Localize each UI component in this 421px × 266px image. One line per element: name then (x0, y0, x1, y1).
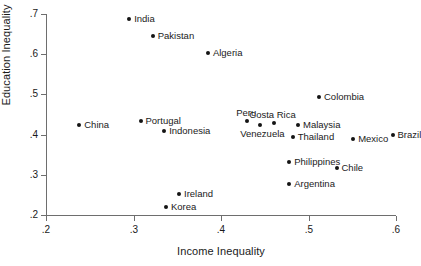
data-point (391, 133, 395, 137)
y-tick-mark (41, 94, 46, 95)
y-axis-line (46, 14, 47, 216)
data-point-label: Algeria (213, 47, 243, 58)
x-tick-label: .2 (31, 224, 61, 235)
y-tick-label: .5 (8, 88, 38, 99)
data-point (206, 51, 210, 55)
y-axis-title: Education Inequality (0, 0, 16, 165)
data-point (77, 123, 81, 127)
x-tick-mark (46, 216, 47, 221)
y-tick-label: .6 (8, 48, 38, 59)
x-tick-mark (221, 216, 222, 221)
data-point (287, 160, 291, 164)
x-tick-label: .6 (381, 224, 411, 235)
x-tick-label: .4 (206, 224, 236, 235)
data-point (139, 119, 143, 123)
y-tick-mark (41, 175, 46, 176)
y-tick-label: .7 (8, 8, 38, 19)
data-point-label: Indonesia (169, 125, 210, 136)
data-point (272, 121, 276, 125)
data-point-label: Ireland (184, 188, 213, 199)
data-point-label: Costa Rica (249, 109, 295, 120)
data-point (164, 205, 168, 209)
x-tick-mark (134, 216, 135, 221)
y-tick-label: .4 (8, 129, 38, 140)
data-point (351, 137, 355, 141)
data-point (335, 166, 339, 170)
data-point-label: China (84, 119, 109, 130)
data-point (258, 123, 262, 127)
data-point-label: Argentina (294, 178, 335, 189)
y-tick-mark (41, 14, 46, 15)
data-point-label: Mexico (358, 133, 388, 144)
x-tick-label: .3 (119, 224, 149, 235)
data-point-label: Korea (171, 201, 196, 212)
data-point (296, 123, 300, 127)
data-point (177, 192, 181, 196)
y-tick-label: .3 (8, 169, 38, 180)
y-tick-mark (41, 135, 46, 136)
x-axis-title: Income Inequality (46, 245, 396, 257)
data-point (151, 34, 155, 38)
data-point-label: Venezuela (240, 128, 284, 139)
data-point-label: Malaysia (303, 119, 341, 130)
x-tick-mark (309, 216, 310, 221)
data-point (162, 129, 166, 133)
y-tick-label: .2 (8, 209, 38, 220)
data-point-label: India (134, 13, 155, 24)
data-point-label: Chile (342, 162, 364, 173)
x-tick-mark (396, 216, 397, 221)
data-point-label: Brazil (398, 129, 421, 140)
y-tick-mark (41, 54, 46, 55)
data-point (287, 182, 291, 186)
data-point-label: Pakistan (158, 30, 194, 41)
data-point-label: Philippines (294, 156, 340, 167)
data-point (127, 17, 131, 21)
x-tick-label: .5 (294, 224, 324, 235)
data-point (291, 135, 295, 139)
data-point-label: Thailand (298, 131, 334, 142)
data-point (317, 95, 321, 99)
data-point-label: Colombia (324, 91, 364, 102)
